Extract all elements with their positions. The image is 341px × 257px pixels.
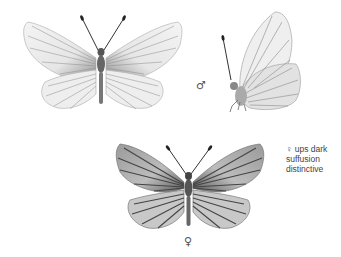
male-upperside-figure xyxy=(24,15,182,109)
note-line-3: distinctive xyxy=(286,164,327,174)
male-symbol: ♂ xyxy=(196,80,206,91)
male-underside-figure xyxy=(221,12,300,112)
note-line-2: suffusion xyxy=(286,154,327,164)
butterfly-plate: ♂ ♀ ♀ ups dark suffusion distinctive xyxy=(0,0,341,257)
female-note: ♀ ups dark suffusion distinctive xyxy=(286,144,327,174)
female-symbol: ♀ xyxy=(184,236,192,247)
female-upperside-figure xyxy=(116,144,264,228)
note-line-1: ♀ ups dark xyxy=(286,144,327,154)
